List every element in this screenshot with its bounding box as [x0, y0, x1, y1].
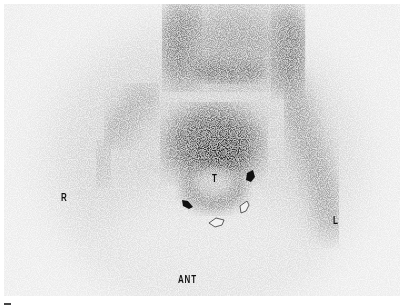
scintigraphy-image: T R L ANT: [4, 4, 400, 296]
solid-arrow-icon: [182, 200, 193, 209]
solid-arrow-icon: [246, 170, 255, 182]
open-arrow-icon: [209, 218, 224, 227]
target-label: T: [212, 173, 218, 184]
view-label: ANT: [178, 274, 197, 285]
right-side-label: R: [61, 192, 68, 203]
panel-marker: [4, 303, 11, 305]
open-arrow-icon: [240, 201, 249, 213]
annotation-layer: [4, 4, 400, 296]
left-side-label: L: [333, 215, 339, 226]
